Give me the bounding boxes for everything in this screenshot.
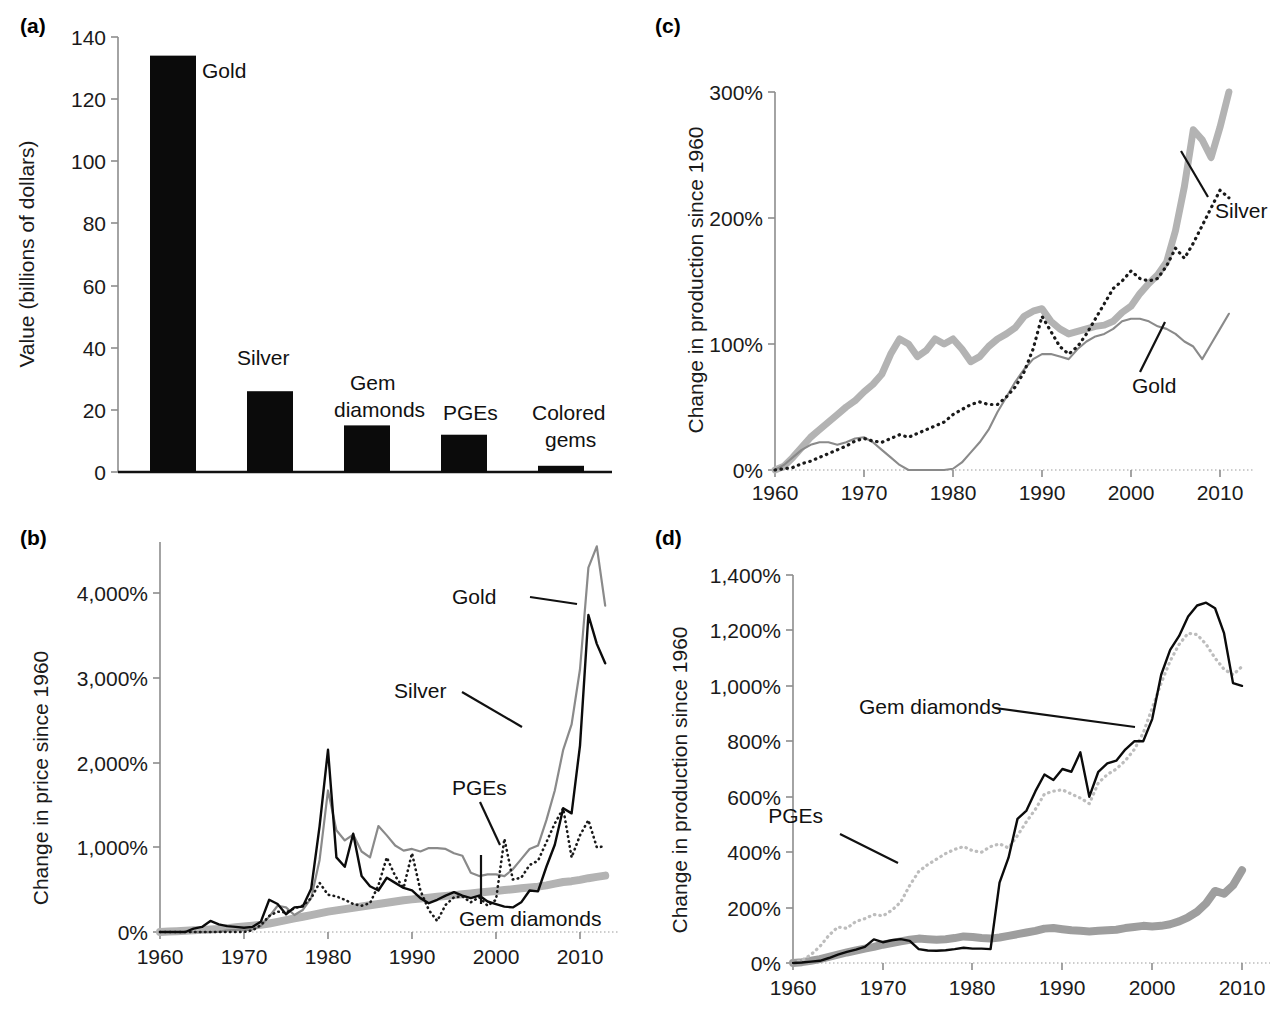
panel-b-xtick-1980: 1980 [305, 945, 352, 968]
panel-d-ytick-1400: 1,400% [710, 564, 781, 587]
series-line-pges[interactable] [775, 92, 1229, 470]
bar-silver[interactable] [247, 391, 293, 472]
bar-gem-diamonds[interactable] [344, 425, 390, 472]
panel-b-ytick-1000: 1,000% [77, 836, 148, 859]
leader-line-gold [1140, 322, 1165, 372]
panel-d-production-line-chart: (d) Change in production since 1960 0% 2… [645, 512, 1285, 1025]
panel-c-xtick-2010: 2010 [1197, 481, 1244, 504]
panel-d-xtick-1990: 1990 [1039, 976, 1086, 999]
panel-d-y-ticks [786, 575, 793, 963]
panel-b-price-line-chart: (b) Change in price since 1960 0% 1,000%… [0, 512, 645, 1025]
panel-a-tag: (a) [20, 14, 46, 37]
panel-d-xtick-2010: 2010 [1219, 976, 1266, 999]
panel-a-y-ticks [111, 37, 118, 472]
bar-label-gem: Gem [350, 371, 396, 394]
leader-line-gold [530, 597, 577, 604]
bar-label-colored: Colored [532, 401, 606, 424]
panel-b-tag: (b) [20, 526, 47, 549]
bar-label-silver: Silver [237, 346, 290, 369]
series-label-gold: Gold [1132, 374, 1176, 397]
panel-c-ytick-200: 200% [709, 207, 763, 230]
series-label-silver: Silver [1215, 199, 1268, 222]
panel-b-x-ticks [160, 932, 580, 939]
panel-d-xtick-1980: 1980 [949, 976, 996, 999]
leader-line-gem-diamonds [995, 708, 1135, 727]
panel-a-ytick-0: 0 [94, 461, 106, 484]
panel-c-y-ticks [768, 92, 775, 470]
panel-c-xtick-1970: 1970 [841, 481, 888, 504]
panel-d-ytick-0: 0% [751, 952, 781, 975]
panel-c-ytick-0: 0% [733, 459, 763, 482]
panel-a-ytick-20: 20 [83, 399, 106, 422]
figure-four-panel-chart: (a) Value (billions of dollars) 0 20 40 … [0, 0, 1285, 1025]
panel-a-ytick-100: 100 [71, 150, 106, 173]
panel-b-xtick-1970: 1970 [221, 945, 268, 968]
panel-c-tag: (c) [655, 14, 681, 37]
panel-d-xtick-1970: 1970 [860, 976, 907, 999]
panel-a-ytick-80: 80 [83, 212, 106, 235]
panel-d-tag: (d) [655, 526, 682, 549]
panel-c-production-line-chart: (c) Change in production since 1960 0% 1… [645, 0, 1285, 512]
panel-c-xtick-1980: 1980 [930, 481, 977, 504]
bar-label-gems: gems [545, 428, 596, 451]
panel-a-ytick-40: 40 [83, 337, 106, 360]
panel-b-ytick-0: 0% [118, 921, 148, 944]
bar-label-gold: Gold [202, 59, 246, 82]
panel-d-x-ticks [793, 963, 1242, 970]
panel-b-xtick-1960: 1960 [137, 945, 184, 968]
panel-a-ytick-120: 120 [71, 88, 106, 111]
panel-b-ytick-2000: 2,000% [77, 752, 148, 775]
bar-gold[interactable] [150, 56, 196, 472]
panel-a-ytick-60: 60 [83, 275, 106, 298]
panel-b-y-axis-title: Change in price since 1960 [29, 651, 52, 906]
leader-line-silver [462, 692, 522, 727]
panel-d-ytick-200: 200% [727, 897, 781, 920]
panel-b-y-ticks [153, 593, 160, 932]
panel-b-xtick-2010: 2010 [557, 945, 604, 968]
bar-label-pges: PGEs [443, 401, 498, 424]
bar-label-diamonds: diamonds [334, 398, 425, 421]
panel-d-xtick-1960: 1960 [770, 976, 817, 999]
series-line-pges[interactable] [793, 633, 1242, 963]
panel-b-xtick-2000: 2000 [473, 945, 520, 968]
series-label-gem-diamonds: Gem diamonds [459, 907, 601, 930]
leader-line-pges [840, 834, 898, 863]
series-label-pges: PGEs [768, 804, 823, 827]
panel-c-x-ticks [775, 470, 1220, 477]
panel-d-ytick-1200: 1,200% [710, 619, 781, 642]
series-label-gem-diamonds: Gem diamonds [859, 695, 1001, 718]
panel-c-ytick-100: 100% [709, 333, 763, 356]
panel-c-y-axis-title: Change in production since 1960 [684, 126, 707, 433]
bar-pges[interactable] [441, 435, 487, 472]
panel-b-xtick-1990: 1990 [389, 945, 436, 968]
panel-d-ytick-1000: 1,000% [710, 675, 781, 698]
series-label-pges: PGEs [452, 776, 507, 799]
panel-d-ytick-400: 400% [727, 841, 781, 864]
series-label-silver: Silver [394, 679, 447, 702]
panel-a-y-axis-title: Value (billions of dollars) [15, 140, 38, 367]
leader-line-pges [480, 802, 500, 845]
panel-a-value-bar-chart: (a) Value (billions of dollars) 0 20 40 … [0, 0, 645, 512]
panel-c-xtick-2000: 2000 [1108, 481, 1155, 504]
panel-d-y-axis-title: Change in production since 1960 [668, 626, 691, 933]
panel-c-xtick-1960: 1960 [752, 481, 799, 504]
series-line-gem-diamonds[interactable] [793, 603, 1242, 963]
panel-b-ytick-4000: 4,000% [77, 582, 148, 605]
panel-b-ytick-3000: 3,000% [77, 667, 148, 690]
panel-d-ytick-800: 800% [727, 730, 781, 753]
panel-c-xtick-1990: 1990 [1019, 481, 1066, 504]
panel-a-ytick-140: 140 [71, 26, 106, 49]
panel-d-xtick-2000: 2000 [1129, 976, 1176, 999]
panel-c-ytick-300: 300% [709, 81, 763, 104]
bar-colored-gems[interactable] [538, 466, 584, 472]
series-label-gold: Gold [452, 585, 496, 608]
